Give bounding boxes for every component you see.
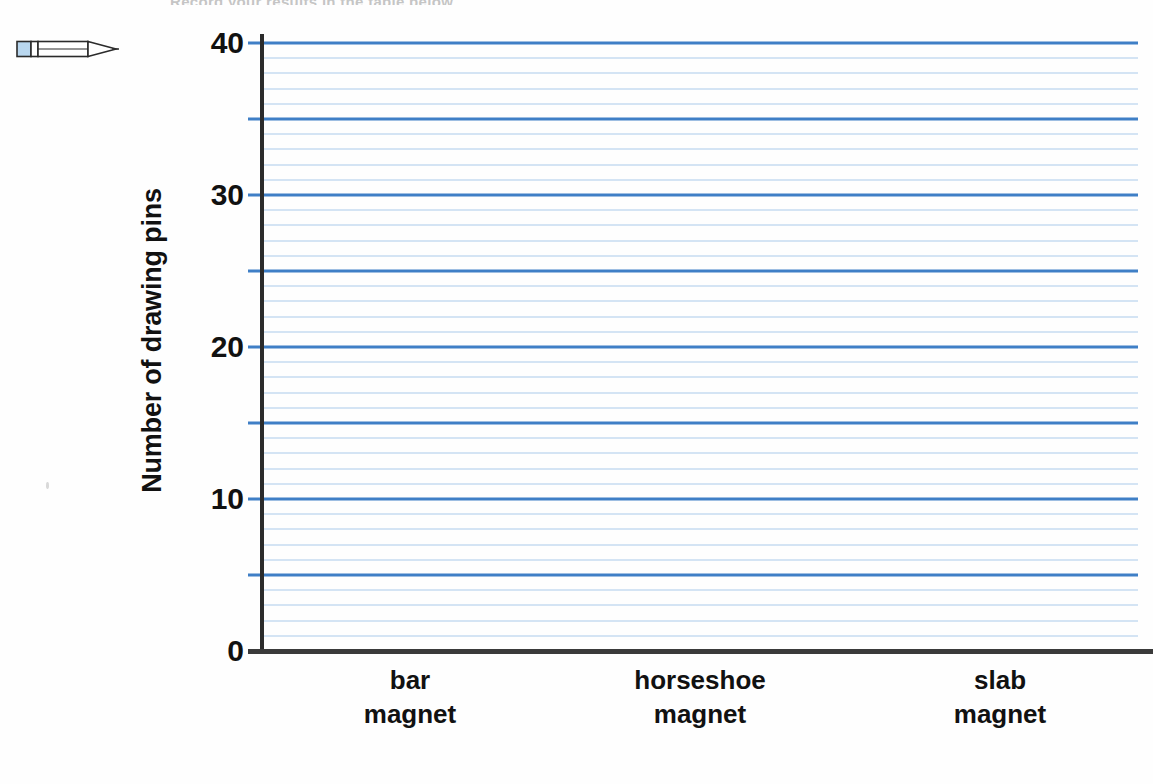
gridline-minor — [262, 255, 1138, 256]
x-axis-line — [248, 649, 1153, 654]
gridline-major — [248, 422, 1138, 425]
gridline-major — [248, 498, 1138, 501]
gridline-minor — [262, 468, 1138, 469]
gridline-minor — [262, 240, 1138, 241]
gridline-minor — [262, 134, 1138, 135]
gridline-minor — [262, 73, 1138, 74]
x-tick-label: barmagnet — [280, 664, 540, 732]
gridline-minor — [262, 149, 1138, 150]
x-tick-label-line: magnet — [870, 698, 1130, 732]
y-tick-label: 30 — [174, 180, 244, 210]
bar-chart-grid: Number of drawing pins 010203040 barmagn… — [0, 0, 1153, 784]
gridline-minor — [262, 58, 1138, 59]
x-tick-label-line: magnet — [570, 698, 830, 732]
gridline-minor — [262, 225, 1138, 226]
y-axis-label: Number of drawing pins — [137, 126, 168, 556]
gridline-minor — [262, 620, 1138, 621]
gridline-minor — [262, 103, 1138, 104]
gridline-minor — [262, 179, 1138, 180]
y-tick-label: 40 — [174, 28, 244, 58]
x-tick-label-line: slab — [870, 664, 1130, 698]
gridline-minor — [262, 483, 1138, 484]
gridline-minor — [262, 377, 1138, 378]
gridline-minor — [262, 438, 1138, 439]
gridline-major — [248, 194, 1138, 197]
gridline-minor — [262, 514, 1138, 515]
y-tick-label: 0 — [174, 636, 244, 666]
gridline-major — [248, 346, 1138, 349]
x-tick-label-line: bar — [280, 664, 540, 698]
gridline-minor — [262, 544, 1138, 545]
gridline-major — [248, 270, 1138, 273]
x-tick-label: horseshoemagnet — [570, 664, 830, 732]
y-tick-label: 10 — [174, 484, 244, 514]
y-tick-label: 20 — [174, 332, 244, 362]
y-axis-line — [260, 34, 264, 654]
gridline-minor — [262, 453, 1138, 454]
gridline-minor — [262, 635, 1138, 636]
gridline-major — [248, 42, 1138, 45]
x-tick-label-line: horseshoe — [570, 664, 830, 698]
gridline-minor — [262, 301, 1138, 302]
gridline-minor — [262, 286, 1138, 287]
gridline-major — [248, 118, 1138, 121]
gridline-minor — [262, 362, 1138, 363]
x-tick-label: slabmagnet — [870, 664, 1130, 732]
gridline-minor — [262, 210, 1138, 211]
gridline-minor — [262, 605, 1138, 606]
gridline-minor — [262, 164, 1138, 165]
gridline-minor — [262, 331, 1138, 332]
gridline-major — [248, 574, 1138, 577]
gridline-minor — [262, 590, 1138, 591]
gridline-minor — [262, 392, 1138, 393]
x-tick-label-line: magnet — [280, 698, 540, 732]
gridline-minor — [262, 407, 1138, 408]
gridline-minor — [262, 88, 1138, 89]
gridline-minor — [262, 559, 1138, 560]
gridline-minor — [262, 529, 1138, 530]
worksheet-page: Record your results in the table below N… — [0, 0, 1153, 784]
gridline-minor — [262, 316, 1138, 317]
